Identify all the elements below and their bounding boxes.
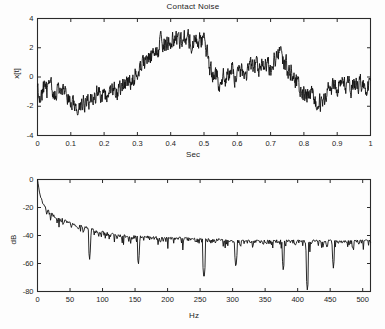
y-tick-label: 0 <box>4 175 34 184</box>
x-tick-label: 150 <box>120 295 150 304</box>
y-tick-label: -60 <box>4 259 34 268</box>
y-tick-label: 0 <box>4 72 34 81</box>
x-tick-label: 400 <box>283 295 313 304</box>
x-tick-label: 0 <box>23 295 53 304</box>
x-tick-label: 200 <box>153 295 183 304</box>
x-tick-label: 350 <box>250 295 280 304</box>
figure-canvas: Contact Noise x[t] Sec 00.10.20.30.40.50… <box>0 0 385 329</box>
x-tick-label: 300 <box>218 295 248 304</box>
y-tick-label: -80 <box>4 287 34 296</box>
x-tick-label: 0.1 <box>56 139 86 148</box>
spectrum-plot <box>0 165 385 329</box>
x-tick-label: 1 <box>356 139 385 148</box>
y-tick-label: 4 <box>4 14 34 23</box>
y-tick-label: -4 <box>4 131 34 140</box>
time-series-trace <box>38 29 371 115</box>
x-tick-label: 100 <box>88 295 118 304</box>
x-tick-label: 450 <box>315 295 345 304</box>
spectrum-trace <box>38 180 371 290</box>
spectrum-svg <box>0 165 385 329</box>
x-tick-label: 50 <box>55 295 85 304</box>
x-tick-label: 0.5 <box>189 139 219 148</box>
y-tick-label: 2 <box>4 43 34 52</box>
y-tick-label: -20 <box>4 203 34 212</box>
y-tick-label: -40 <box>4 231 34 240</box>
x-tick-label: 0.4 <box>156 139 186 148</box>
x-tick-label: 0.8 <box>289 139 319 148</box>
x-tick-label: 0.9 <box>322 139 352 148</box>
x-tick-label: 0 <box>23 139 53 148</box>
x-tick-label: 0.3 <box>122 139 152 148</box>
x-tick-label: 0.7 <box>256 139 286 148</box>
x-tick-label: 250 <box>185 295 215 304</box>
x-tick-label: 0.2 <box>89 139 119 148</box>
y-tick-label: -2 <box>4 101 34 110</box>
x-tick-label: 500 <box>348 295 378 304</box>
x-tick-label: 0.6 <box>222 139 252 148</box>
